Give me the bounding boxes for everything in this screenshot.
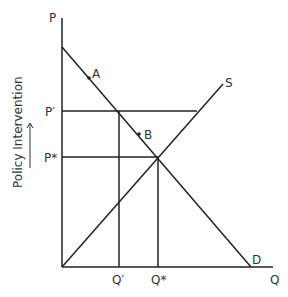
point-a-label: A [92,67,101,81]
point-a-marker [87,76,91,80]
p-prime-label: P′ [45,105,55,119]
policy-intervention-label: Policy Intervention [11,76,25,188]
point-b-marker [137,132,141,136]
p-star-label: P* [44,151,57,165]
demand-label: D [252,253,261,267]
supply-demand-diagram: P Q P′ P* Q′ Q* S D A B Policy Intervent… [0,0,288,297]
axis-x-label: Q [270,273,279,287]
point-b-label: B [144,128,152,142]
axis-y-label: P [49,11,56,25]
q-prime-label: Q′ [112,273,124,287]
supply-label: S [225,76,233,90]
q-star-label: Q* [151,273,166,287]
